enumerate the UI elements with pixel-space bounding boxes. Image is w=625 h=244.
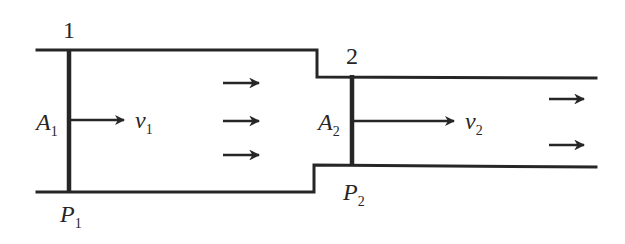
pipe-top-wall: [37, 50, 596, 78]
section-1-number: 1: [63, 18, 75, 42]
flow-arrows-narrow: [549, 99, 584, 145]
area-symbol: A: [318, 109, 333, 135]
area-1-label: A1: [36, 110, 58, 139]
section-2-number: 2: [346, 44, 358, 68]
velocity-subscript: 1: [146, 122, 153, 137]
pressure-2-label: P2: [343, 180, 365, 209]
flow-arrows-wide: [223, 83, 259, 155]
pressure-subscript: 2: [358, 194, 365, 209]
area-subscript: 2: [333, 124, 340, 139]
velocity-subscript: 2: [476, 123, 483, 138]
area-symbol: A: [36, 109, 51, 135]
pressure-symbol: P: [60, 201, 75, 227]
pressure-subscript: 1: [75, 216, 82, 231]
pressure-symbol: P: [343, 179, 358, 205]
pipe-flow-diagram: [0, 0, 625, 244]
velocity-1-label: v1: [135, 108, 153, 137]
area-subscript: 1: [51, 124, 58, 139]
pressure-1-label: P1: [60, 202, 82, 231]
velocity-symbol: v: [465, 108, 476, 134]
velocity-symbol: v: [135, 107, 146, 133]
pipe-bottom-wall: [37, 165, 596, 192]
area-2-label: A2: [318, 110, 340, 139]
velocity-2-label: v2: [465, 109, 483, 138]
